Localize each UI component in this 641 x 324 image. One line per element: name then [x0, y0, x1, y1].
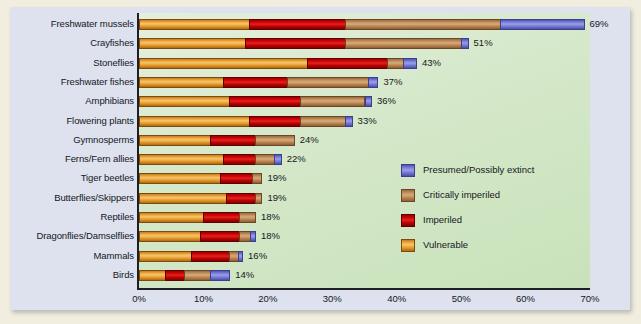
x-tick-label: 40%	[377, 293, 417, 304]
bar-segment	[345, 38, 462, 49]
category-label: Crayfishes	[14, 37, 134, 48]
bar-segment	[139, 58, 308, 69]
bar-segment	[210, 270, 230, 281]
bar-segment	[387, 58, 404, 69]
legend-item[interactable]: Vulnerable	[401, 237, 581, 262]
legend-swatch-icon	[401, 189, 415, 202]
bar-segment	[139, 193, 227, 204]
bar-row: 37%	[139, 77, 590, 88]
bar-segment	[139, 135, 211, 146]
y-axis-line	[137, 13, 139, 289]
bar-value-label: 18%	[261, 230, 280, 242]
legend-swatch-icon	[401, 164, 415, 177]
bar-segment	[139, 96, 230, 107]
category-label: Birds	[14, 269, 134, 280]
category-label: Butterflies/Skippers	[14, 192, 134, 203]
legend-label: Vulnerable	[423, 237, 468, 253]
bar-segment	[255, 154, 275, 165]
legend-swatch-icon	[401, 239, 415, 252]
bar-segment	[287, 77, 369, 88]
bar-segment	[500, 19, 585, 30]
bar-segment	[255, 135, 295, 146]
bar-segment	[245, 38, 346, 49]
bar-segment	[223, 154, 256, 165]
bar-value-label: 18%	[261, 211, 280, 223]
bar-value-label: 43%	[422, 57, 441, 69]
legend-swatch-icon	[401, 214, 415, 227]
bar-segment	[200, 231, 240, 242]
category-label: Amphibians	[14, 95, 134, 106]
x-tick-label: 10%	[183, 293, 223, 304]
x-tick-label: 30%	[312, 293, 352, 304]
bar-value-label: 36%	[377, 95, 396, 107]
bar-value-label: 24%	[300, 134, 319, 146]
x-tick-label: 20%	[248, 293, 288, 304]
bar-segment	[139, 251, 192, 262]
bar-segment	[139, 212, 204, 223]
x-tick-label: 60%	[506, 293, 546, 304]
bar-segment	[229, 96, 301, 107]
x-tick-label: 0%	[119, 293, 159, 304]
legend-label: Critically imperiled	[423, 187, 500, 203]
category-label: Stoneflies	[14, 57, 134, 68]
bar-value-label: 51%	[474, 37, 493, 49]
chart-card: Freshwater musselsCrayfishesStonefliesFr…	[10, 7, 630, 310]
bar-value-label: 19%	[267, 172, 286, 184]
bar-value-label: 69%	[590, 18, 609, 30]
bar-segment	[139, 116, 250, 127]
bar-segment	[307, 58, 389, 69]
bar-segment	[250, 231, 256, 242]
legend-item[interactable]: Imperiled	[401, 212, 581, 237]
bar-segment	[223, 77, 288, 88]
bar-segment	[238, 251, 244, 262]
category-label: Ferns/Fern allies	[14, 153, 134, 164]
bar-value-label: 19%	[267, 192, 286, 204]
bar-row: 33%	[139, 116, 590, 127]
bar-segment	[139, 77, 224, 88]
bar-row: 43%	[139, 58, 590, 69]
bar-segment	[249, 116, 302, 127]
category-label: Tiger beetles	[14, 172, 134, 183]
legend-label: Presumed/Possibly extinct	[423, 162, 534, 178]
bar-row: 14%	[139, 270, 590, 281]
category-label: Reptiles	[14, 211, 134, 222]
category-label: Freshwater mussels	[14, 18, 134, 29]
bar-value-label: 14%	[235, 269, 254, 281]
bar-segment	[239, 212, 256, 223]
legend-item[interactable]: Critically imperiled	[401, 187, 581, 212]
scanned-page-border: Freshwater musselsCrayfishesStonefliesFr…	[0, 0, 641, 324]
bar-segment	[184, 270, 211, 281]
bar-segment	[368, 77, 379, 88]
bar-row: 36%	[139, 96, 590, 107]
bar-segment	[139, 173, 221, 184]
bar-segment	[461, 38, 468, 49]
legend-label: Imperiled	[423, 212, 462, 228]
bar-segment	[139, 38, 246, 49]
category-label: Flowering plants	[14, 115, 134, 126]
bar-row: 69%	[139, 19, 590, 30]
bar-segment	[203, 212, 239, 223]
bar-segment	[210, 135, 256, 146]
bar-segment	[403, 58, 417, 69]
bar-segment	[345, 19, 501, 30]
bar-segment	[300, 96, 365, 107]
legend-item[interactable]: Presumed/Possibly extinct	[401, 162, 581, 187]
bar-segment	[139, 19, 250, 30]
bar-segment	[252, 173, 263, 184]
x-tick-label: 50%	[441, 293, 481, 304]
bar-segment	[300, 116, 346, 127]
bar-segment	[249, 19, 347, 30]
bar-segment	[191, 251, 231, 262]
bar-segment	[139, 270, 166, 281]
category-label: Dragonflies/Damselflies	[14, 230, 134, 241]
bar-segment	[165, 270, 185, 281]
bar-segment	[139, 154, 224, 165]
bar-segment	[274, 154, 281, 165]
bar-value-label: 37%	[383, 76, 402, 88]
x-tick-label: 70%	[570, 293, 610, 304]
x-axis-line	[137, 288, 590, 290]
bar-segment	[365, 96, 372, 107]
bar-segment	[220, 173, 253, 184]
bar-row: 24%	[139, 135, 590, 146]
chart-legend: Presumed/Possibly extinctCritically impe…	[401, 162, 581, 262]
